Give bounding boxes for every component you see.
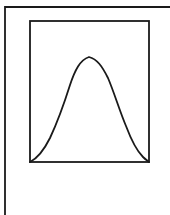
bell-curve [30, 57, 149, 162]
bell-curve-diagram [0, 0, 170, 215]
